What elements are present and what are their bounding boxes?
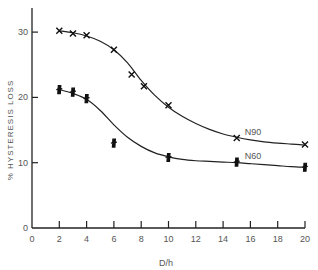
x-tick-label: 14 [218,234,228,244]
x-tick-label: 10 [163,234,173,244]
cross-marker-icon [70,88,76,96]
axes [32,8,305,228]
x-axis-label: D/h [159,258,173,268]
x-tick-label: 18 [273,234,283,244]
y-tick-label: 30 [18,27,28,37]
curve-n60 [59,90,305,168]
hysteresis-loss-chart: 024681012141618200102030 N90N60 D/h % HY… [0,0,318,270]
series-label-n60: N60 [245,151,262,161]
y-axis-label: % HYSTERESIS LOSS [6,80,15,181]
series-label-n90: N90 [245,127,262,137]
x-tick-label: 8 [139,234,144,244]
x-tick-label: 0 [29,234,34,244]
curves [59,31,305,167]
cross-marker-icon [84,95,90,103]
x-tick-label: 16 [245,234,255,244]
x-tick-label: 2 [57,234,62,244]
cross-marker-icon [234,158,240,166]
markers [56,28,308,171]
series-labels: N90N60 [245,127,262,161]
cross-marker-icon [111,139,117,147]
ticks: 024681012141618200102030 [18,27,310,244]
x-tick-label: 6 [111,234,116,244]
y-tick-label: 0 [23,223,28,233]
cross-marker-icon [302,163,308,171]
y-tick-label: 10 [18,158,28,168]
x-tick-label: 20 [300,234,310,244]
x-tick-label: 12 [191,234,201,244]
chart-canvas: 024681012141618200102030 N90N60 D/h % HY… [0,0,318,270]
x-marker-icon [129,72,135,78]
curve-n90 [59,31,305,145]
y-tick-label: 20 [18,92,28,102]
x-tick-label: 4 [84,234,89,244]
x-marker-icon [111,47,117,53]
